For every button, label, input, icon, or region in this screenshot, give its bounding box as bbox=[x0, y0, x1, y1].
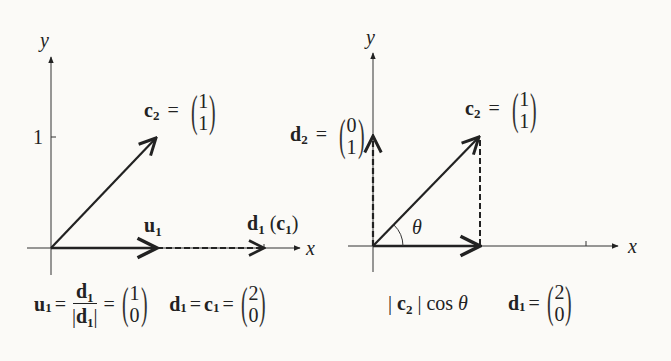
left-c2-label: c2 = ( 11 ) bbox=[144, 90, 220, 134]
normalization-fraction: d1 |d1| bbox=[72, 281, 98, 326]
theta-angle-arc bbox=[394, 225, 403, 246]
left-d1-label: d1 (c1) bbox=[247, 213, 298, 233]
right-d1-matrix: ( 20 ) bbox=[543, 281, 576, 325]
theta-label: θ bbox=[412, 217, 422, 237]
right-c2-label: c2 = ( 11 ) bbox=[465, 88, 541, 132]
right-d2-label: d2 = ( 01 ) bbox=[290, 114, 368, 158]
c2-name: c bbox=[144, 99, 153, 121]
projection-expression: | c2 | cos θ bbox=[388, 293, 468, 313]
left-y-axis-label: y bbox=[40, 30, 49, 50]
left-c2-vector bbox=[51, 138, 156, 248]
right-x-axis-label: x bbox=[628, 236, 637, 256]
u1-matrix: ( 10 ) bbox=[118, 282, 151, 326]
d1-matrix: ( 20 ) bbox=[237, 282, 270, 326]
c2-matrix: ( 11 ) bbox=[187, 90, 220, 134]
right-diagram bbox=[348, 53, 618, 272]
right-caption: | c2 | cos θ d1 = ( 20 ) bbox=[388, 281, 576, 325]
right-y-axis-label: y bbox=[366, 27, 375, 47]
left-x-axis-label: x bbox=[306, 238, 315, 258]
right-c2-matrix: ( 11 ) bbox=[508, 88, 541, 132]
right-c2-vector bbox=[373, 137, 479, 246]
d2-matrix: ( 01 ) bbox=[335, 114, 368, 158]
left-u1-label: u1 bbox=[144, 215, 162, 235]
left-caption: u1 = d1 |d1| = ( 10 ) d1 = c1 = ( 20 ) bbox=[34, 281, 270, 326]
left-y-tick-label: 1 bbox=[33, 127, 43, 147]
